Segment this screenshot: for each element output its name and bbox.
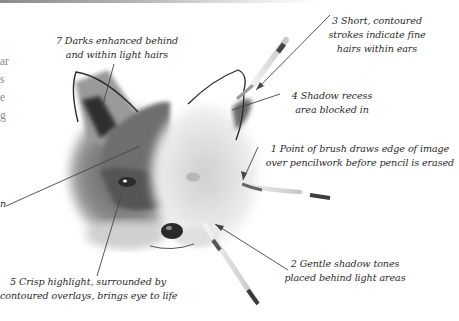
caption-line: 7 Darks enhanced behind bbox=[52, 34, 182, 48]
caption-line: strokes indicate fine bbox=[318, 28, 436, 42]
caption-line: hairs within ears bbox=[318, 42, 436, 56]
left-eye bbox=[118, 177, 136, 187]
eye-highlight bbox=[123, 179, 127, 182]
right-eye bbox=[186, 173, 200, 182]
caption-line: 3 Short, contoured bbox=[318, 14, 436, 28]
caption-line: 1 Point of brush draws edge of image bbox=[262, 142, 458, 156]
caption-line: contoured overlays, brings eye to life bbox=[0, 289, 176, 303]
caption-line: 5 Crisp highlight, surrounded by bbox=[0, 275, 176, 289]
nose bbox=[161, 223, 183, 239]
caption-7: 7 Darks enhanced behind and within light… bbox=[52, 34, 182, 62]
caption-2: 2 Gentle shadow tones placed behind ligh… bbox=[276, 257, 414, 285]
caption-left-fragment: n bbox=[0, 197, 12, 211]
caption-line: area blocked in bbox=[280, 103, 384, 117]
caption-line: 4 Shadow recess bbox=[280, 89, 384, 103]
caption-line: and within light hairs bbox=[52, 48, 182, 62]
caption-line: over pencilwork before pencil is erased bbox=[262, 156, 458, 170]
caption-5: 5 Crisp highlight, surrounded by contour… bbox=[0, 275, 176, 303]
caption-line: 2 Gentle shadow tones bbox=[276, 257, 414, 271]
brush-ears bbox=[238, 40, 286, 98]
caption-4: 4 Shadow recess area blocked in bbox=[280, 89, 384, 117]
caption-1: 1 Point of brush draws edge of image ove… bbox=[262, 142, 458, 170]
caption-3: 3 Short, contoured strokes indicate fine… bbox=[318, 14, 436, 56]
caption-line: placed behind light areas bbox=[276, 271, 414, 285]
